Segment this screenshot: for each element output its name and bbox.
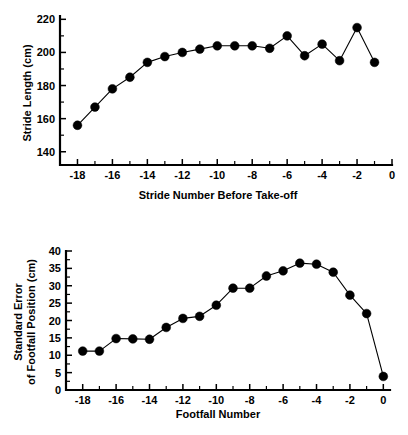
x-tick-label: -16 <box>104 169 120 181</box>
chart-stride-length: Stride Length (cm) 140160180200220 -18-1… <box>0 0 408 215</box>
data-point-marker <box>265 44 274 53</box>
data-point-marker <box>162 323 171 332</box>
data-point-marker <box>195 312 204 321</box>
y-tick-label: 200 <box>37 46 55 58</box>
x-tick-label: 0 <box>380 394 386 406</box>
x-tick-label: -2 <box>352 169 362 181</box>
data-point-marker <box>318 40 327 49</box>
x-tick-label: -12 <box>175 394 191 406</box>
data-point-marker <box>78 347 87 356</box>
x-tick-label: -14 <box>142 394 159 406</box>
stride-length-x-axis-title: Stride Number Before Take-off <box>139 189 298 201</box>
data-point-marker <box>108 84 117 93</box>
y-tick-label: 10 <box>49 349 61 361</box>
y-tick-label: 180 <box>37 80 55 92</box>
x-tick-label: -8 <box>247 169 257 181</box>
chart-footfall-standard-error: Standard Error of Footfall Position (cm)… <box>0 218 408 435</box>
data-point-marker <box>346 291 355 300</box>
data-point-marker <box>279 266 288 275</box>
y-tick-label: 35 <box>49 262 61 274</box>
data-point-marker <box>335 56 344 65</box>
x-tick-label: -6 <box>278 394 288 406</box>
footfall-se-data-markers <box>78 259 387 381</box>
axis-spine <box>66 251 390 390</box>
x-tick-label: -14 <box>139 169 156 181</box>
data-point-marker <box>125 73 134 82</box>
x-tick-label: -6 <box>282 169 292 181</box>
y-tick-label: 220 <box>37 13 55 25</box>
y-tick-label: 5 <box>55 367 61 379</box>
y-tick-label: 30 <box>49 280 61 292</box>
x-tick-label: -18 <box>75 394 91 406</box>
data-point-marker <box>312 260 321 269</box>
y-tick-label: 20 <box>49 315 61 327</box>
y-tick-label: 140 <box>37 146 55 158</box>
data-point-marker <box>212 301 221 310</box>
data-point-marker <box>379 372 388 381</box>
y-tick-label: 40 <box>49 245 61 257</box>
data-point-marker <box>178 48 187 57</box>
stride-length-data-markers <box>73 23 379 129</box>
footfall-se-svg: Standard Error of Footfall Position (cm)… <box>0 218 408 435</box>
footfall-se-y-tick-labels: 0510152025303540 <box>49 245 61 396</box>
x-tick-label: -2 <box>345 394 355 406</box>
x-tick-label: -10 <box>208 394 224 406</box>
x-tick-label: -12 <box>174 169 190 181</box>
data-point-marker <box>229 284 238 293</box>
stride-length-x-tick-labels: -18-16-14-12-10-8-6-4-20 <box>70 169 396 181</box>
data-point-marker <box>300 51 309 60</box>
data-point-marker <box>179 314 188 323</box>
data-point-marker <box>245 284 254 293</box>
data-point-marker <box>248 41 257 50</box>
data-point-marker <box>128 335 137 344</box>
data-point-marker <box>230 41 239 50</box>
x-tick-label: -18 <box>70 169 86 181</box>
data-point-marker <box>91 103 100 112</box>
x-tick-label: -8 <box>245 394 255 406</box>
x-tick-label: 0 <box>389 169 395 181</box>
x-tick-label: -16 <box>108 394 124 406</box>
footfall-se-series-line <box>83 263 384 376</box>
footfall-se-y-axis-title-line1: Standard Error <box>12 282 24 360</box>
footfall-se-y-axis-title-line2: of Footfall Position (cm) <box>25 259 37 385</box>
data-point-marker <box>95 347 104 356</box>
two-panel-figure: Stride Length (cm) 140160180200220 -18-1… <box>0 0 408 435</box>
data-point-marker <box>262 272 271 281</box>
stride-length-series-line <box>77 28 374 126</box>
data-point-marker <box>73 121 82 130</box>
y-tick-label: 25 <box>49 297 61 309</box>
data-point-marker <box>143 58 152 67</box>
data-point-marker <box>160 52 169 61</box>
footfall-se-x-tick-labels: -18-16-14-12-10-8-6-4-20 <box>75 394 387 406</box>
y-tick-label: 160 <box>37 113 55 125</box>
y-tick-label: 0 <box>55 384 61 396</box>
y-tick-label: 15 <box>49 332 61 344</box>
data-point-marker <box>370 58 379 67</box>
data-point-marker <box>353 23 362 32</box>
stride-length-y-axis-title: Stride Length (cm) <box>21 44 33 142</box>
stride-length-y-tick-labels: 140160180200220 <box>37 13 55 157</box>
x-tick-label: -10 <box>209 169 225 181</box>
data-point-marker <box>195 45 204 54</box>
x-tick-label: -4 <box>317 169 328 181</box>
footfall-se-x-axis-title: Footfall Number <box>176 408 261 420</box>
x-tick-label: -4 <box>312 394 323 406</box>
data-point-marker <box>329 268 338 277</box>
data-point-marker <box>295 259 304 268</box>
data-point-marker <box>283 31 292 40</box>
data-point-marker <box>213 41 222 50</box>
data-point-marker <box>362 309 371 318</box>
data-point-marker <box>112 334 121 343</box>
footfall-se-axis-spines <box>66 251 390 390</box>
stride-length-svg: Stride Length (cm) 140160180200220 -18-1… <box>0 0 408 215</box>
data-point-marker <box>145 335 154 344</box>
